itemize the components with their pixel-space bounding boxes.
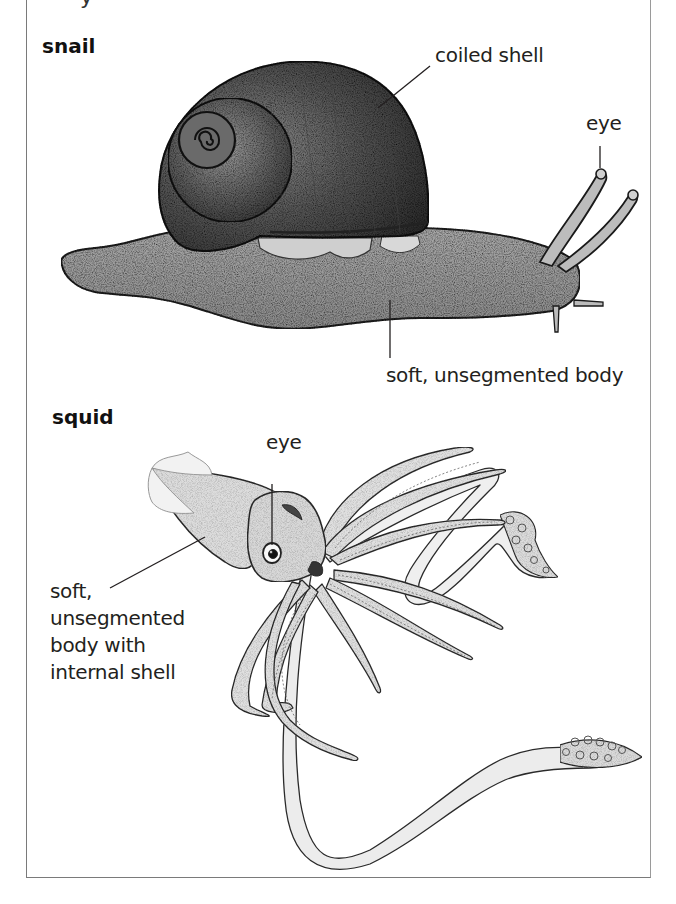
illustration-canvas	[0, 0, 676, 904]
snail-title: snail	[42, 34, 95, 58]
squid-title: squid	[52, 405, 114, 429]
squid-body-label-line3: body with	[50, 632, 146, 659]
squid-body-label-line4: internal shell	[50, 659, 175, 686]
squid-illustration	[110, 447, 642, 869]
squid-body-label-line2: unsegmented	[50, 605, 185, 632]
squid-eye-label: eye	[266, 429, 302, 456]
squid-body-label-line1: soft,	[50, 578, 92, 605]
snail-eye-label: eye	[586, 110, 622, 137]
snail-body-label: soft, unsegmented body	[386, 362, 623, 389]
coiled-shell-label: coiled shell	[435, 42, 544, 69]
snail-eye-stalk-1	[540, 173, 606, 266]
snail-illustration	[61, 62, 638, 358]
